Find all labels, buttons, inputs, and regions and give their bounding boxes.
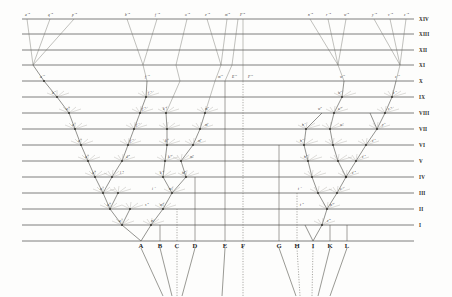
horizon-label-XI: XI [419, 62, 425, 68]
variety-label-z5: z5 [361, 154, 367, 159]
variety-superscript: 5 [171, 154, 173, 157]
variety-label-e14: e14 [205, 12, 211, 17]
variety-label-n14: n14 [308, 12, 314, 17]
variety-letter: y [381, 123, 384, 127]
variety-label-w7: w7 [340, 122, 345, 127]
variety-superscript: 9 [396, 90, 398, 93]
variety-superscript: 3 [343, 186, 345, 189]
variety-label-f10: f10 [145, 74, 151, 79]
persistent-lineages [160, 19, 347, 241]
variety-label-a10: a10 [40, 74, 46, 79]
variety-superscript: 4 [123, 170, 125, 173]
variety-superscript: 10 [251, 74, 254, 77]
lineage-I [296, 19, 406, 241]
variety-labels: a1m1a2m2s2a3i3m3a4l4k4m4a5d5k5m5a6f6k6m6… [25, 12, 410, 223]
variety-superscript: 5 [365, 154, 367, 157]
horizon-label-V: V [419, 158, 423, 164]
variety-label-w9: w9 [338, 90, 343, 95]
fan-K [318, 248, 330, 296]
variety-superscript: 2 [330, 218, 332, 221]
horizon-numeral-labels: IIIIIIIVVVIVIIVIIIIXXXIXIIXIIIXIV [419, 16, 429, 228]
variety-superscript: 9 [55, 90, 57, 93]
variety-label-a6: a6 [78, 138, 83, 143]
variety-letter: l [120, 171, 121, 175]
variety-letter: z [392, 91, 395, 95]
variety-label-F14: F14 [239, 12, 246, 17]
fan-G [279, 248, 296, 296]
darwin-divergence-figure: IIIIIIIVVVIVIIVIIIIXXXIXIIXIIIXIV ABCDEF… [0, 0, 452, 297]
variety-letter: p [71, 13, 74, 17]
variety-letter: z [326, 219, 329, 223]
variety-label-n2: n2 [330, 202, 335, 207]
variety-label-w14: w14 [344, 12, 350, 17]
species-label-L: L [345, 242, 350, 249]
variety-superscript: 14 [375, 12, 378, 15]
variety-label-a3: a3 [100, 186, 105, 191]
variety-label-m5: m5 [190, 154, 195, 159]
variety-superscript: 14 [51, 12, 54, 15]
variety-superscript: 10 [235, 74, 238, 77]
variety-superscript: 6 [375, 138, 377, 141]
lineage-E-cont [232, 19, 238, 65]
variety-superscript: 8 [321, 106, 323, 109]
horizon-label-XIII: XIII [419, 31, 429, 37]
variety-superscript: 14 [208, 12, 211, 15]
variety-superscript: 14 [311, 12, 314, 15]
variety-label-a1: a1 [119, 218, 124, 223]
fan-L [330, 248, 347, 296]
variety-superscript: 3 [103, 186, 105, 189]
variety-label-u8: u8 [338, 106, 343, 111]
variety-superscript: 1 [122, 218, 124, 221]
variety-superscript: 6 [201, 138, 203, 141]
variety-superscript: 10 [221, 74, 224, 77]
variety-superscript: 2 [110, 202, 112, 205]
variety-superscript: 14 [228, 12, 231, 15]
variety-label-z3: z3 [339, 186, 345, 191]
variety-label-z6: z6 [371, 138, 377, 143]
variety-label-v14: v14 [388, 12, 394, 17]
twigs-I [296, 90, 406, 225]
variety-superscript: 8 [69, 106, 71, 109]
species-label-K: K [327, 242, 333, 249]
species-label-C: C [175, 242, 180, 249]
species-label-F: F [241, 242, 245, 249]
variety-label-a4: a4 [92, 170, 97, 175]
variety-letter: z [387, 107, 390, 111]
variety-superscript: 14 [243, 12, 246, 15]
variety-label-m14: m14 [225, 12, 231, 17]
ancestral-fans [141, 248, 347, 296]
variety-superscript: 2 [333, 202, 335, 205]
variety-superscript: 5 [88, 154, 90, 157]
variety-label-d5: d5 [126, 154, 131, 159]
variety-superscript: 10 [148, 74, 151, 77]
variety-superscript: 14 [128, 12, 131, 15]
variety-superscript: 14 [158, 12, 161, 15]
variety-label-m10: m10 [218, 74, 224, 79]
horizon-label-XII: XII [419, 47, 427, 53]
fan-A [141, 248, 163, 296]
variety-label-t2: t2 [300, 202, 305, 207]
variety-label-p14: p14 [71, 12, 78, 17]
variety-superscript: 3 [172, 186, 174, 189]
variety-letter: z [351, 171, 354, 175]
diagram-canvas: IIIIIIIVVVIVIIVIIIIXXXIXIIXIIIXIV ABCDEF… [0, 0, 452, 297]
variety-letter: z [361, 155, 364, 159]
variety-label-F10: F10 [247, 74, 254, 79]
variety-label-r14: r14 [326, 12, 332, 17]
lineage-E-top [225, 65, 232, 81]
variety-superscript: 7 [305, 122, 307, 125]
variety-label-z14: z14 [403, 12, 410, 17]
variety-superscript: 2 [148, 202, 150, 205]
variety-superscript: 6 [81, 138, 83, 141]
variety-superscript: 14 [407, 12, 410, 15]
variety-label-a5: a5 [85, 154, 90, 159]
variety-superscript: 14 [329, 12, 332, 15]
species-label-H: H [294, 242, 300, 249]
variety-superscript: 14 [28, 12, 31, 15]
variety-superscript: 10 [398, 74, 401, 77]
variety-superscript: 4 [355, 170, 357, 173]
variety-label-o14: o14 [185, 12, 191, 17]
variety-superscript: 7 [343, 122, 345, 125]
variety-label-l4: l4 [120, 170, 125, 175]
variety-superscript: 4 [95, 170, 97, 173]
